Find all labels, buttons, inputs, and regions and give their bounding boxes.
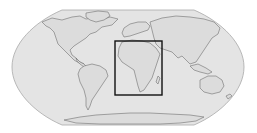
australia [200, 76, 224, 94]
world-map [0, 0, 257, 133]
map-canvas [0, 0, 257, 133]
